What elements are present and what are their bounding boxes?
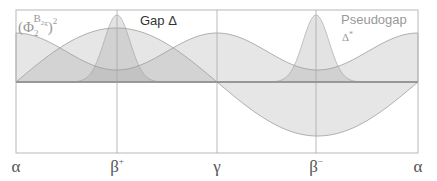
x-axis-label-2: γ bbox=[212, 157, 221, 176]
x-axis-label-1: β+ bbox=[110, 156, 124, 176]
x-axis-labels: αβ+γβ−α bbox=[12, 156, 423, 176]
pseudogap-symbol: Δ* bbox=[342, 30, 353, 43]
x-axis-label-3: β− bbox=[309, 156, 323, 176]
pseudogap-label: Pseudogap bbox=[341, 12, 407, 27]
x-axis-label-4: α bbox=[414, 157, 423, 176]
x-axis-label-0: α bbox=[12, 157, 21, 176]
gap-symmetry-diagram: (Φ2B2g)2 Gap Δ Pseudogap Δ* αβ+γβ−α bbox=[0, 0, 437, 181]
phi-squared-label: (Φ2B2g)2 bbox=[18, 12, 57, 38]
gap-label: Gap Δ bbox=[140, 13, 177, 28]
